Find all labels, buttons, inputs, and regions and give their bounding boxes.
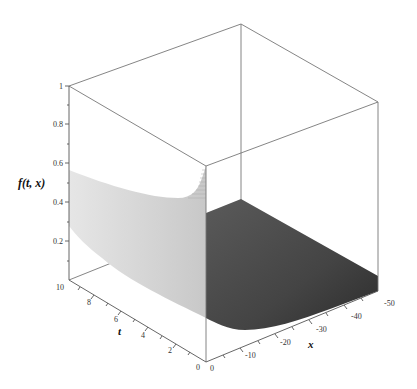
surface-plot: 1 0.8 0.6 0.4 0.2 f(t, x) 10 8 6 4 2 0 t [0, 0, 417, 389]
x-tick-minus10: -10 [245, 351, 256, 360]
surface-dark-floor [206, 199, 378, 330]
x-tick-0: 0 [210, 364, 214, 373]
t-tick-8: 8 [87, 298, 91, 307]
z-tick-0.2: 0.2 [53, 237, 63, 246]
z-axis-label: f(t, x) [18, 176, 45, 190]
x-tick-minus40: -40 [351, 312, 362, 321]
x-tick-minus30: -30 [316, 325, 327, 334]
surface-light-wall [69, 166, 206, 318]
t-axis-label: t [118, 325, 122, 337]
z-tick-0.6: 0.6 [53, 159, 63, 168]
z-tick-1: 1 [59, 82, 63, 91]
t-tick-2: 2 [168, 346, 172, 355]
t-tick-6: 6 [114, 315, 118, 324]
x-tick-minus20: -20 [280, 338, 291, 347]
z-tick-0.4: 0.4 [53, 198, 63, 207]
t-tick-0: 0 [196, 363, 200, 372]
x-tick-minus50: -50 [384, 299, 395, 308]
z-axis: 1 0.8 0.6 0.4 0.2 f(t, x) [18, 82, 69, 280]
z-tick-0.8: 0.8 [53, 120, 63, 129]
t-tick-4: 4 [141, 331, 145, 340]
x-axis-label: x [307, 338, 314, 350]
t-tick-10: 10 [56, 283, 64, 292]
